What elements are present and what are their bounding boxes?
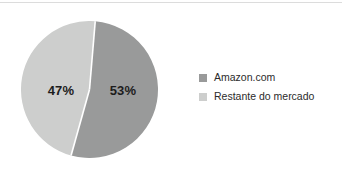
pie-slice-label-restante-do-mercado: 47% (41, 83, 81, 98)
legend-swatch-amazon-com (199, 74, 207, 82)
chart-legend: Amazon.com Restante do mercado (199, 68, 339, 106)
top-border-divider (0, 2, 342, 3)
legend-label-amazon-com: Amazon.com (214, 72, 275, 83)
pie-slice-label-amazon-com: 53% (103, 83, 143, 98)
pie-chart-figure: 47% 53% Amazon.com Restante do mercado (0, 0, 342, 173)
legend-swatch-restante-do-mercado (199, 93, 207, 101)
legend-item-restante-do-mercado[interactable]: Restante do mercado (199, 87, 339, 106)
legend-label-restante-do-mercado: Restante do mercado (214, 91, 314, 102)
legend-item-amazon-com[interactable]: Amazon.com (199, 68, 339, 87)
